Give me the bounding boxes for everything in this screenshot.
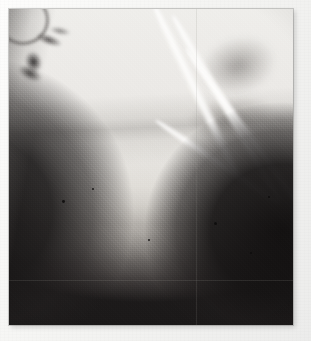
screenshot-root: Grayscale radiographic film image xyxy=(0,0,311,341)
radiograph-image xyxy=(9,9,293,325)
film-vignette xyxy=(9,9,293,325)
